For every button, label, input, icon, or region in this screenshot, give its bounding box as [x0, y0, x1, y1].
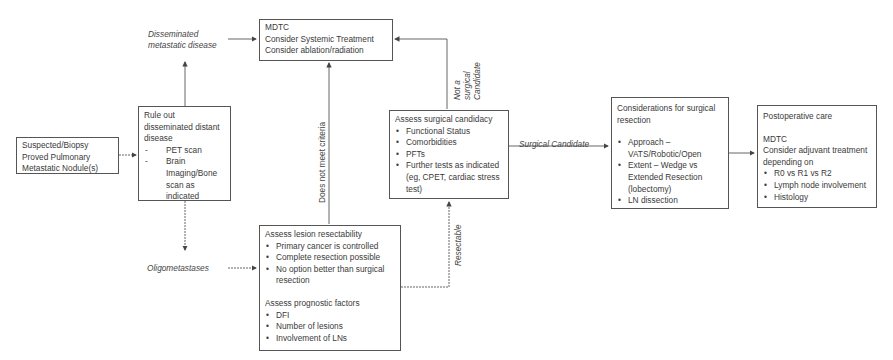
- mdtc-line: Consider Systemic Treatment: [265, 34, 387, 46]
- node-postop-title: Postoperative care: [763, 111, 871, 123]
- list-item: Functional Status: [395, 126, 503, 138]
- list-item: R0 vs R1 vs R2: [763, 168, 871, 180]
- label-not-surgical-candidate: Not a surgical Candidate: [452, 50, 482, 100]
- label-resectable: Resectable: [453, 224, 463, 266]
- node-rule-out-title: Rule out disseminated distant disease: [144, 110, 225, 145]
- label-disseminated-metastatic-disease: Disseminated metastatic disease: [148, 29, 228, 51]
- list-item: Further tests as indicated (eg, CPET, ca…: [395, 160, 503, 195]
- list-item: Comorbidities: [395, 137, 503, 149]
- mdtc-line: Consider ablation/radiation: [265, 45, 387, 57]
- label-surgical-candidate: Surgical Candidate: [519, 139, 589, 150]
- node-considerations-title: Considerations for surgical resection: [617, 103, 723, 126]
- node-suspected-nodule: Suspected/Biopsy Proved Pulmonary Metast…: [16, 137, 119, 174]
- label-oligometastases: Oligometastases: [147, 263, 209, 274]
- node-mdtc: MDTC Consider Systemic Treatment Conside…: [259, 19, 393, 61]
- list-item: DFI: [265, 310, 395, 322]
- list-item: Complete resection possible: [265, 252, 395, 264]
- list-item: PFTs: [395, 149, 503, 161]
- list-item: LN dissection: [617, 195, 723, 207]
- node-lesion-resectability: Assess lesion resectability Primary canc…: [259, 225, 401, 351]
- list-item: No option better than surgical resection: [265, 264, 395, 287]
- list-item: Brain Imaging/Bone scan as indicated: [144, 156, 225, 202]
- list-item: Histology: [763, 192, 871, 204]
- node-postop-subtitle: Consider adjuvant treatment depending on: [763, 145, 871, 168]
- label-does-not-meet-criteria: Does not meet criteria: [317, 122, 327, 203]
- postop-list: R0 vs R1 vs R2 Lymph node involvement Hi…: [763, 168, 871, 203]
- considerations-list: Approach – VATS/Robotic/Open Extent – We…: [617, 137, 723, 207]
- list-item: PET scan: [144, 145, 225, 157]
- surgical-candidacy-list: Functional Status Comorbidities PFTs Fur…: [395, 126, 503, 196]
- node-resectability-title: Assess lesion resectability: [265, 229, 395, 241]
- list-item: Primary cancer is controlled: [265, 241, 395, 253]
- rule-out-list: PET scan Brain Imaging/Bone scan as indi…: [144, 145, 225, 203]
- node-surgical-candidacy: Assess surgical candidacy Functional Sta…: [389, 110, 509, 199]
- node-considerations-resection: Considerations for surgical resection Ap…: [611, 97, 729, 209]
- list-item: Involvement of LNs: [265, 333, 395, 345]
- prognostic-list: DFI Number of lesions Involvement of LNs: [265, 310, 395, 345]
- node-prognostic-title: Assess prognostic factors: [265, 298, 395, 310]
- node-suspected-nodule-text: Suspected/Biopsy Proved Pulmonary Metast…: [22, 140, 113, 175]
- node-surgical-candidacy-title: Assess surgical candidacy: [395, 114, 503, 126]
- node-postoperative-care: Postoperative care MDTC Consider adjuvan…: [757, 105, 877, 208]
- list-item: Lymph node involvement: [763, 180, 871, 192]
- resectability-list: Primary cancer is controlled Complete re…: [265, 241, 395, 287]
- list-item: Number of lesions: [265, 321, 395, 333]
- list-item: Extent – Wedge vs Extended Resection (lo…: [617, 160, 723, 195]
- node-rule-out: Rule out disseminated distant disease PE…: [138, 106, 231, 201]
- mdtc-line: MDTC: [265, 22, 387, 34]
- node-postop-mdtc: MDTC: [763, 134, 871, 146]
- label-not-surgical-candidate-text: Not a surgical Candidate: [452, 62, 482, 100]
- list-item: Approach – VATS/Robotic/Open: [617, 137, 723, 160]
